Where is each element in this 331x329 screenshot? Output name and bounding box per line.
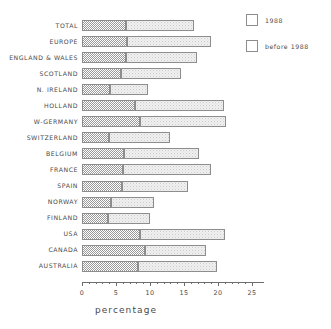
bar-segment-1988 xyxy=(82,20,126,31)
horizontal-stacked-bar-chart: TOTALEUROPEENGLAND & WALESSCOTLANDN. IRE… xyxy=(0,0,331,329)
bar-segment-1988 xyxy=(82,100,135,111)
bar-segment-before-1988 xyxy=(145,245,206,256)
bar-segment-1988 xyxy=(82,197,111,208)
legend-item-before-1988: before 1988 xyxy=(246,40,331,52)
bar-segment-before-1988 xyxy=(140,229,225,240)
category-label: NORWAY xyxy=(0,198,78,206)
bar-segment-before-1988 xyxy=(108,213,150,224)
bar-segment-before-1988 xyxy=(111,197,154,208)
category-label: FINLAND xyxy=(0,214,78,222)
category-label: W-GERMANY xyxy=(0,118,78,126)
x-tick-minor xyxy=(211,282,212,284)
category-label: TOTAL xyxy=(0,22,78,30)
x-tick-label: 15 xyxy=(180,289,189,297)
plot-area xyxy=(82,18,252,282)
bar-segment-before-1988 xyxy=(121,68,182,79)
x-tick-minor xyxy=(177,282,178,284)
x-tick-major xyxy=(184,282,185,286)
category-label: SCOTLAND xyxy=(0,70,78,78)
category-label: FRANCE xyxy=(0,166,78,174)
legend-label-before-1988: before 1988 xyxy=(265,43,309,50)
bar-segment-before-1988 xyxy=(140,116,226,127)
x-tick-minor xyxy=(130,282,131,284)
bar-segment-before-1988 xyxy=(110,84,148,95)
bar-segment-1988 xyxy=(82,132,109,143)
x-tick-label: 25 xyxy=(248,289,257,297)
bar-segment-1988 xyxy=(82,52,126,63)
x-axis-title: percentage xyxy=(0,305,252,315)
bar-segment-1988 xyxy=(82,213,108,224)
x-tick-minor xyxy=(204,282,205,284)
bar-segment-before-1988 xyxy=(138,261,218,272)
x-tick-major xyxy=(150,282,151,286)
legend: 1988 before 1988 xyxy=(246,14,331,66)
x-tick-label: 5 xyxy=(114,289,118,297)
bar-segment-before-1988 xyxy=(122,181,188,192)
bar-segment-1988 xyxy=(82,148,124,159)
x-tick-major xyxy=(82,282,83,286)
x-tick-label: 0 xyxy=(80,289,84,297)
x-tick-minor xyxy=(225,282,226,284)
bar-segment-before-1988 xyxy=(124,148,199,159)
bar-segment-before-1988 xyxy=(135,100,224,111)
x-tick-minor xyxy=(89,282,90,284)
x-tick-minor xyxy=(164,282,165,284)
bar-segment-1988 xyxy=(82,68,121,79)
category-label: AUSTRALIA xyxy=(0,262,78,270)
category-label: N. IRELAND xyxy=(0,86,78,94)
x-tick-minor xyxy=(245,282,246,284)
category-label: SWITZERLAND xyxy=(0,134,78,142)
category-label: SPAIN xyxy=(0,182,78,190)
x-tick-minor xyxy=(109,282,110,284)
x-tick-minor xyxy=(123,282,124,284)
x-tick-major xyxy=(116,282,117,286)
x-tick-minor xyxy=(96,282,97,284)
legend-swatch-1988 xyxy=(246,14,258,26)
x-tick-minor xyxy=(136,282,137,284)
category-label: USA xyxy=(0,230,78,238)
bar-segment-1988 xyxy=(82,36,127,47)
category-axis-labels: TOTALEUROPEENGLAND & WALESSCOTLANDN. IRE… xyxy=(0,0,78,290)
x-tick-label: 10 xyxy=(146,289,155,297)
bar-segment-before-1988 xyxy=(127,36,211,47)
category-label: CANADA xyxy=(0,246,78,254)
x-tick-major xyxy=(252,282,253,286)
legend-swatch-before-1988 xyxy=(246,40,258,52)
bar-segment-before-1988 xyxy=(126,52,197,63)
x-tick-minor xyxy=(170,282,171,284)
bar-segment-1988 xyxy=(82,164,123,175)
category-label: ENGLAND & WALES xyxy=(0,54,78,62)
x-tick-minor xyxy=(198,282,199,284)
bar-segment-before-1988 xyxy=(123,164,211,175)
legend-label-1988: 1988 xyxy=(265,17,283,24)
x-tick-minor xyxy=(143,282,144,284)
x-tick-major xyxy=(218,282,219,286)
bar-segment-1988 xyxy=(82,116,140,127)
x-tick-minor xyxy=(238,282,239,284)
bar-segment-1988 xyxy=(82,84,110,95)
x-tick-minor xyxy=(157,282,158,284)
bar-segment-1988 xyxy=(82,229,140,240)
x-tick-minor xyxy=(102,282,103,284)
x-tick-minor xyxy=(232,282,233,284)
category-label: EUROPE xyxy=(0,38,78,46)
bar-segment-before-1988 xyxy=(126,20,194,31)
bar-segment-1988 xyxy=(82,245,145,256)
x-tick-minor xyxy=(191,282,192,284)
bar-segment-1988 xyxy=(82,261,138,272)
category-label: BELGIUM xyxy=(0,150,78,158)
bar-segment-1988 xyxy=(82,181,122,192)
bar-segment-before-1988 xyxy=(109,132,170,143)
category-label: HOLLAND xyxy=(0,102,78,110)
x-tick-label: 20 xyxy=(214,289,223,297)
legend-item-1988: 1988 xyxy=(246,14,331,26)
